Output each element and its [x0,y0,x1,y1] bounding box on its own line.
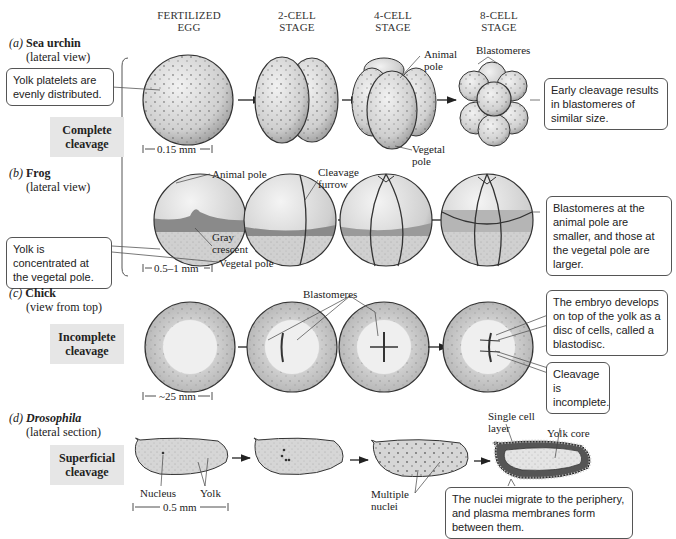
section-b-title: (b) Frog [9,167,50,180]
callout-yolk-vegetal: Yolk is concentrated at the vegetal pole… [6,237,112,289]
label-multiple-nuclei: Multiple nuclei [371,488,417,512]
callout-blastodisc: The embryo develops on top of the yolk a… [546,290,668,356]
callout-early-cleavage: Early cleavage results in blastomeres of… [544,78,668,130]
chick-2-cell [247,302,337,392]
stage-header-line: EGG [150,21,228,33]
label-vegetal-pole-a: Vegetal pole [412,143,450,167]
section-b-view: (lateral view) [26,181,90,194]
stage-header-line: 4-CELL [358,9,428,21]
section-letter: (a) [9,36,23,50]
stage-header-8-cell: 8-CELL STAGE [464,9,534,33]
drosophila-early-nuclei [254,438,343,475]
callout-cleavage-incomplete: Cleavage is incomplete. [546,362,610,414]
label-single-cell-layer: Single cell layer [488,410,538,434]
sea-urchin-2-cell [255,57,338,143]
stage-header-line: STAGE [262,21,332,33]
chick-8-cell [443,302,533,392]
section-a-view: (lateral view) [26,51,90,64]
label-vegetal-pole-b: Vegetal pole [219,257,274,269]
label-yolk-core: Yolk core [547,427,590,439]
section-d-title: (d) Drosophila [9,412,81,425]
label-blastomeres-a: Blastomeres [476,44,530,56]
scale-bar-drosophila: 0.5 mm [163,501,197,513]
sea-urchin-fertilized-egg [143,55,233,145]
section-c-view: (view from top) [26,301,102,314]
label-animal-pole-b: Animal pole [212,168,267,180]
label-blastomeres-c: Blastomeres [303,288,357,300]
stage-header-line: FERTILIZED [150,9,228,21]
frog-8-cell [437,174,537,272]
scale-bar-frog: 0.5–1 mm [154,262,199,274]
section-letter: (b) [9,166,23,180]
organism-name: Chick [25,286,56,300]
drosophila-fertilized-egg [135,438,227,475]
section-letter: (c) [9,286,22,300]
sea-urchin-8-cell [459,62,528,146]
label-gray-crescent: Gray crescent [212,231,258,255]
stage-header-line: STAGE [464,21,534,33]
stage-header-fertilized-egg: FERTILIZED EGG [150,9,228,33]
label-nucleus: Nucleus [140,487,176,499]
callout-yolk-even: Yolk platelets are evenly distributed. [6,68,114,106]
organism-name: Drosophila [26,411,81,425]
category-superficial-cleavage: Superficial cleavage [50,445,124,485]
category-complete-cleavage: Complete cleavage [50,117,124,157]
label-animal-pole-a: Animal pole [424,48,464,72]
stage-header-line: STAGE [358,21,428,33]
organism-name: Frog [26,166,50,180]
stage-header-4-cell: 4-CELL STAGE [358,9,428,33]
stage-header-line: 2-CELL [262,9,332,21]
label-yolk: Yolk [200,487,221,499]
callout-blastomere-sizes: Blastomeres at the animal pole are small… [546,196,672,276]
drosophila-blastoderm [494,441,590,478]
chick-fertilized-egg [145,302,235,392]
chick-4-cell [339,302,429,392]
callout-nuclei-migrate: The nuclei migrate to the periphery, and… [445,487,633,539]
category-incomplete-cleavage: Incomplete cleavage [50,324,124,364]
section-c-title: (c) Chick [9,287,56,300]
drosophila-multiple-nuclei [371,440,468,477]
scale-bar-chick: ~25 mm [159,390,196,402]
stage-header-2-cell: 2-CELL STAGE [262,9,332,33]
section-d-view: (lateral section) [26,426,101,439]
section-a-title: (a) Sea urchin [9,37,81,50]
organism-name: Sea urchin [26,36,81,50]
label-cleavage-furrow: Cleavage furrow [318,166,366,190]
section-letter: (d) [9,411,23,425]
scale-bar-sea-urchin: 0.15 mm [157,143,196,155]
stage-header-line: 8-CELL [464,9,534,21]
